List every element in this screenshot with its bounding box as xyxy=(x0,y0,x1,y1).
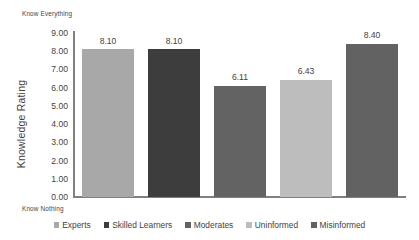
y-axis-tick-label: 1.00 xyxy=(26,174,68,183)
bar-value-label: 8.40 xyxy=(346,31,398,40)
bar xyxy=(346,44,398,197)
bar-value-label: 8.10 xyxy=(148,37,200,46)
bar xyxy=(280,80,332,197)
y-axis-tick-label: 3.00 xyxy=(26,138,68,147)
legend-item-misinformed[interactable]: Misinformed xyxy=(311,221,365,229)
bar-value-label: 8.10 xyxy=(82,37,134,46)
y-axis-tick-label: 8.00 xyxy=(26,47,68,56)
bar-chart: Know Everything Know Nothing Knowledge R… xyxy=(0,0,419,240)
y-axis-tick-labels: 0.001.002.003.004.005.006.007.008.009.00 xyxy=(26,33,68,197)
bar xyxy=(214,86,266,197)
legend-item-moderates[interactable]: Moderates xyxy=(185,221,233,229)
bar xyxy=(148,49,200,197)
bar-value-label: 6.43 xyxy=(280,67,332,76)
legend-swatch-icon xyxy=(311,222,317,228)
bar-group: 8.10 xyxy=(82,33,134,197)
legend-swatch-icon xyxy=(185,222,191,228)
legend-item-label: Moderates xyxy=(194,221,234,229)
scale-anchor-high-label: Know Everything xyxy=(22,10,72,17)
legend-item-label: Experts xyxy=(62,221,90,229)
plot-area: 8.108.106.116.438.40 xyxy=(75,33,405,197)
y-axis-tick-label: 4.00 xyxy=(26,120,68,129)
bar-group: 8.10 xyxy=(148,33,200,197)
legend-item-label: Uninformed xyxy=(255,221,298,229)
legend-item-skilled-learners[interactable]: Skilled Learners xyxy=(104,221,173,229)
bar-group: 6.11 xyxy=(214,33,266,197)
y-axis-tick-label: 9.00 xyxy=(26,29,68,38)
bar-value-label: 6.11 xyxy=(214,73,266,82)
legend-item-label: Skilled Learners xyxy=(112,221,172,229)
legend-swatch-icon xyxy=(104,222,110,228)
legend-item-label: Misinformed xyxy=(320,221,366,229)
scale-anchor-low-label: Know Nothing xyxy=(22,205,64,212)
bar-group: 6.43 xyxy=(280,33,332,197)
legend-swatch-icon xyxy=(246,222,252,228)
y-axis-tick-label: 7.00 xyxy=(26,65,68,74)
y-axis-tick-label: 6.00 xyxy=(26,83,68,92)
y-axis-tick-label: 0.00 xyxy=(26,193,68,202)
y-axis-tick-label: 5.00 xyxy=(26,102,68,111)
bar xyxy=(82,49,134,197)
legend-item-experts[interactable]: Experts xyxy=(54,221,91,229)
y-axis-tick-label: 2.00 xyxy=(26,156,68,165)
legend-swatch-icon xyxy=(54,222,60,228)
legend-item-uninformed[interactable]: Uninformed xyxy=(246,221,298,229)
chart-legend: ExpertsSkilled LearnersModeratesUninform… xyxy=(0,221,419,229)
bar-group: 8.40 xyxy=(346,33,398,197)
